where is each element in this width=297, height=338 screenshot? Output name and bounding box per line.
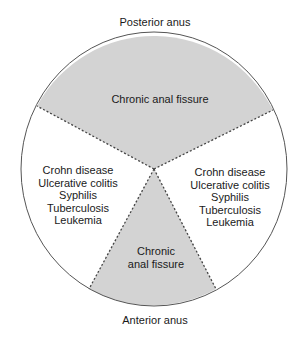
anterior-label-line-2: anal fissure [128, 258, 184, 271]
posterior-anus-label: Posterior anus [120, 16, 191, 29]
anal-fissure-location-diagram: Posterior anus Chronic anal fissure Croh… [0, 0, 297, 338]
left-lateral-causes-list: Crohn disease Ulcerative colitis Syphili… [38, 164, 117, 227]
list-item: Ulcerative colitis [190, 179, 269, 192]
list-item: Crohn disease [38, 164, 117, 177]
list-item: Tuberculosis [38, 202, 117, 215]
list-item: Syphilis [190, 191, 269, 204]
anterior-region-label: Chronic anal fissure [128, 245, 184, 270]
anterior-label-line-1: Chronic [128, 245, 184, 258]
right-lateral-causes-list: Crohn disease Ulcerative colitis Syphili… [190, 166, 269, 229]
list-item: Tuberculosis [190, 204, 269, 217]
list-item: Ulcerative colitis [38, 177, 117, 190]
list-item: Leukemia [38, 214, 117, 227]
list-item: Syphilis [38, 189, 117, 202]
list-item: Leukemia [190, 216, 269, 229]
anterior-anus-label: Anterior anus [122, 314, 187, 327]
list-item: Crohn disease [190, 166, 269, 179]
posterior-region-label: Chronic anal fissure [111, 93, 208, 106]
